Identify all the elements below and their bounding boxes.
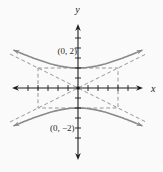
vertex-label-bottom: (0, −2) (50, 123, 75, 133)
hyperbola-plot: y x (0, 2) (0, −2) (0, 0, 163, 172)
y-axis-label: y (74, 4, 80, 15)
axes (12, 24, 143, 160)
hyperbola-figure: y x (0, 2) (0, −2) (0, 0, 163, 172)
vertex-label-top: (0, 2) (58, 46, 78, 56)
x-axis-label: x (150, 83, 156, 94)
